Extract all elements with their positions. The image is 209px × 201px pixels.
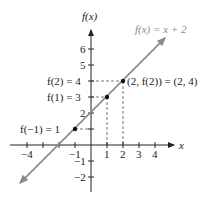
x-tick-label: 2	[120, 148, 126, 160]
function-graph: x f(x) −4 −1 1 2 3 4 6 5 2 −1 −2 f(x) = …	[0, 0, 209, 201]
point-2	[121, 79, 125, 83]
y-tick-label: −2	[74, 171, 86, 183]
x-tick-label: 1	[104, 148, 110, 160]
x-tick-label: −4	[21, 148, 33, 160]
x-tick-label: 4	[152, 148, 158, 160]
point-label-fneg1: f(−1) = 1	[20, 123, 60, 136]
point-annotation: (2, f(2)) = (2, 4)	[127, 75, 198, 88]
y-tick-label: 6	[80, 43, 86, 55]
point-neg1	[73, 127, 77, 131]
function-label: f(x) = x + 2	[135, 23, 187, 36]
y-tick-label: −1	[74, 155, 86, 167]
point-label-f1: f(1) = 3	[47, 91, 81, 104]
y-tick-label: 2	[80, 107, 86, 119]
y-axis-label: f(x)	[82, 10, 98, 23]
point-1	[105, 95, 109, 99]
point-label-f2: f(2) = 4	[47, 75, 81, 88]
x-tick-label: 3	[136, 148, 142, 160]
y-tick-label: 5	[80, 59, 86, 71]
x-axis-label: x	[178, 139, 184, 151]
